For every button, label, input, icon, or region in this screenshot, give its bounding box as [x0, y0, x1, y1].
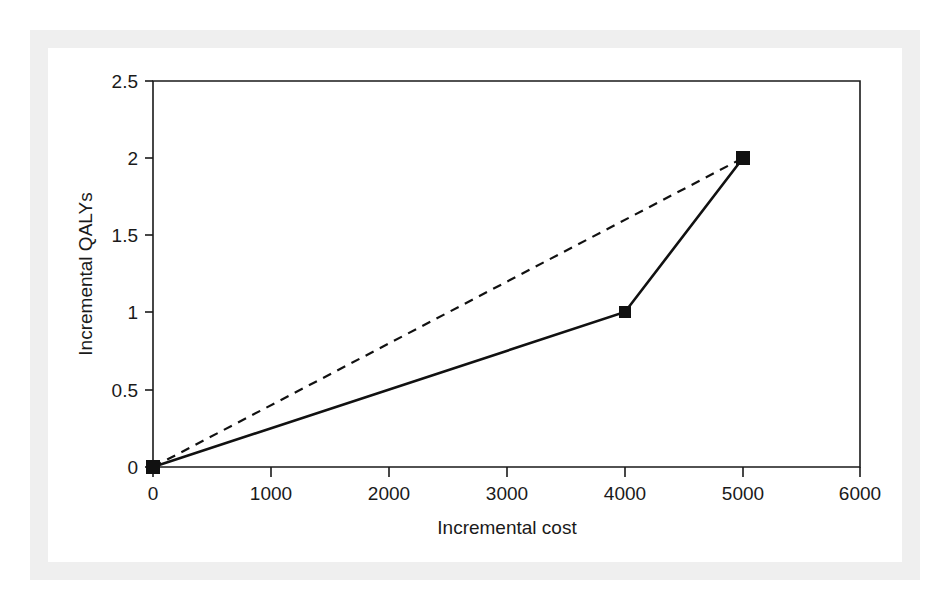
x-tick-label-4000: 4000 [604, 483, 646, 504]
y-axis-title: Incremental QALYs [75, 192, 96, 355]
x-tick-label-6000: 6000 [839, 483, 881, 504]
x-axis-ticks [153, 467, 860, 477]
x-tick-label-5000: 5000 [722, 483, 764, 504]
y-tick-label-2.5: 2.5 [112, 71, 138, 92]
x-axis-tick-labels: 0 1000 2000 3000 4000 5000 6000 [148, 483, 881, 504]
x-tick-label-2000: 2000 [368, 483, 410, 504]
plot-border [153, 81, 860, 467]
data-point-marker-5000-2 [737, 152, 750, 165]
x-tick-label-0: 0 [148, 483, 159, 504]
x-tick-label-3000: 3000 [486, 483, 528, 504]
y-axis-tick-labels: 2.5 2 1.5 1 0.5 0 [112, 71, 138, 478]
x-tick-label-1000: 1000 [250, 483, 292, 504]
data-point-marker-4000-1 [620, 307, 631, 318]
data-point-marker-origin [147, 461, 160, 474]
x-axis-title: Incremental cost [437, 517, 577, 538]
series-efficiency-frontier-line [153, 158, 743, 467]
plot-frame [153, 81, 860, 467]
y-tick-label-0.5: 0.5 [112, 380, 138, 401]
y-tick-label-1: 1 [127, 302, 138, 323]
chart-svg: 2.5 2 1.5 1 0.5 0 0 1000 2000 [0, 0, 949, 601]
y-tick-label-2: 2 [127, 148, 138, 169]
cost-effectiveness-plane-chart: 2.5 2 1.5 1 0.5 0 0 1000 2000 [0, 0, 949, 601]
figure-page: 2.5 2 1.5 1 0.5 0 0 1000 2000 [0, 0, 949, 601]
series-treatment-path-markers [147, 152, 750, 474]
y-tick-label-1.5: 1.5 [112, 225, 138, 246]
y-axis-ticks [145, 81, 153, 467]
y-tick-label-0: 0 [127, 457, 138, 478]
